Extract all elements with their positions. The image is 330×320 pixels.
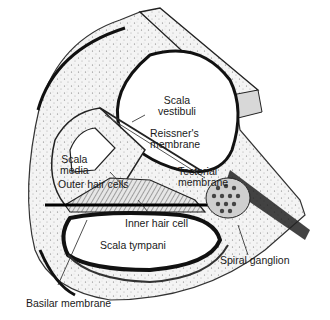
label-scala-tympani: Scala tympani	[100, 240, 166, 251]
label-line: media	[60, 165, 89, 176]
label-basilar-membrane: Basilar membrane	[26, 298, 111, 309]
label-scala-vestibuli: Scala vestibuli	[158, 95, 196, 117]
label-inner-hair-cell: Inner hair cell	[125, 218, 188, 229]
label-line: membrane	[178, 177, 228, 188]
label-spiral-ganglion: Spiral ganglion	[220, 255, 289, 266]
label-reissners-membrane: Reissner's membrane	[150, 128, 200, 150]
label-outer-hair-cells: Outer hair cells	[58, 179, 129, 190]
label-tectorial-membrane: Tectorial membrane	[178, 166, 228, 188]
label-scala-media: Scala media	[60, 154, 89, 176]
cochlea-illustration	[0, 0, 330, 320]
label-line: vestibuli	[158, 106, 196, 117]
label-line: membrane	[150, 139, 200, 150]
